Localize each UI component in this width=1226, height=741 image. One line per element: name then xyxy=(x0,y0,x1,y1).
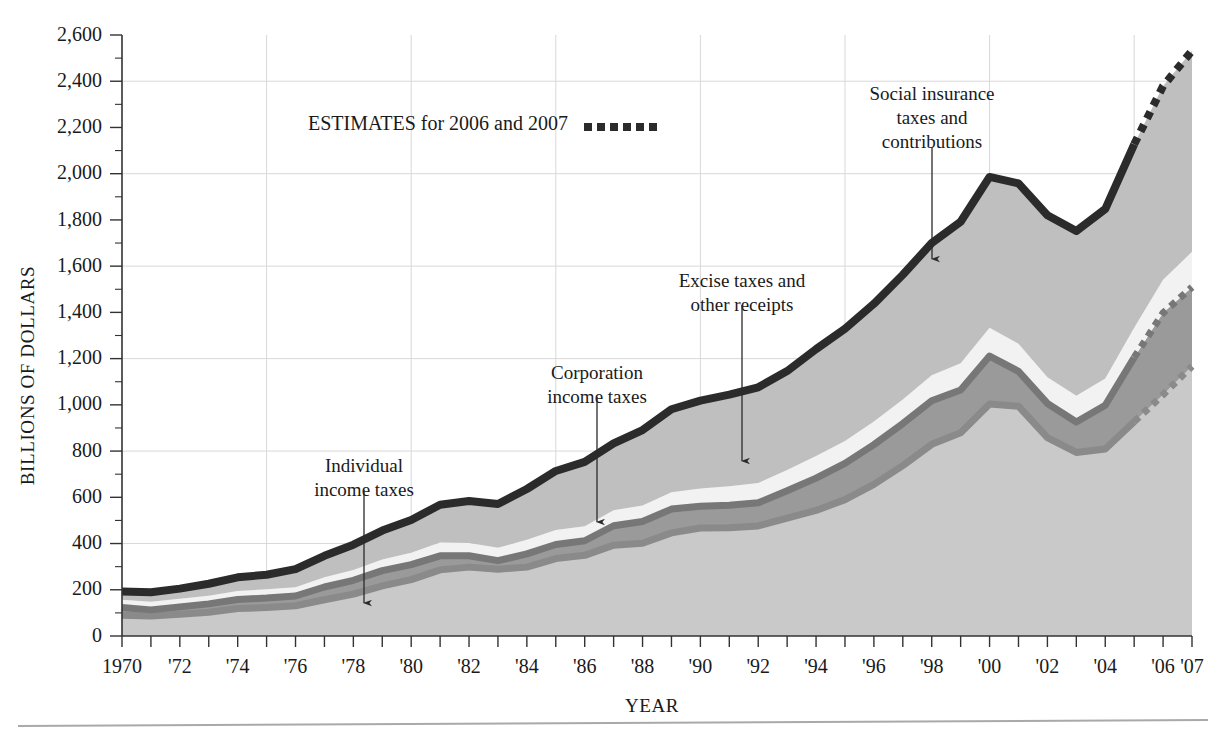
y-tick-label: 2,000 xyxy=(57,161,102,183)
y-tick-label: 1,800 xyxy=(57,208,102,230)
legend-dot xyxy=(636,123,644,131)
legend-dot xyxy=(623,123,631,131)
y-tick-label: 2,200 xyxy=(57,115,102,137)
legend-dot xyxy=(610,123,618,131)
x-tick-label: '82 xyxy=(457,655,481,677)
legend-dot xyxy=(584,123,592,131)
y-axis-title: BILLIONS OF DOLLARS xyxy=(17,266,38,485)
annotation-label-line: Social insurance xyxy=(869,83,994,104)
x-tick-label: '94 xyxy=(804,655,828,677)
annotation-label-line: Individual xyxy=(325,455,403,476)
y-tick-label: 1,200 xyxy=(57,346,102,368)
x-tick-label: 1970 xyxy=(102,655,142,677)
y-tick-label: 2,600 xyxy=(57,23,102,45)
estimates-legend-label: ESTIMATES for 2006 and 2007 xyxy=(308,112,568,134)
y-tick-label: 1,600 xyxy=(57,254,102,276)
x-tick-label: '92 xyxy=(746,655,770,677)
annotation-label-line: taxes and xyxy=(896,107,968,128)
x-tick-label: '00 xyxy=(978,655,1002,677)
y-tick-label: 0 xyxy=(92,624,102,646)
legend-dot xyxy=(649,123,657,131)
x-tick-label: '88 xyxy=(631,655,655,677)
chart-root: 02004006008001,0001,2001,4001,6001,8002,… xyxy=(0,0,1226,741)
y-tick-label: 400 xyxy=(72,531,102,553)
x-tick-label: '76 xyxy=(284,655,308,677)
annotation-label-line: Excise taxes and xyxy=(679,270,806,291)
y-tick-label: 800 xyxy=(72,439,102,461)
legend-dot xyxy=(597,123,605,131)
y-tick-label: 600 xyxy=(72,485,102,507)
x-tick-label: '78 xyxy=(342,655,366,677)
x-tick-label: '72 xyxy=(168,655,192,677)
y-tick-label: 1,000 xyxy=(57,392,102,414)
x-tick-label: '04 xyxy=(1093,655,1117,677)
x-axis-title: YEAR xyxy=(625,695,679,716)
y-tick-label: 2,400 xyxy=(57,69,102,91)
y-tick-label: 1,400 xyxy=(57,300,102,322)
x-tick-label: '07 xyxy=(1180,655,1204,677)
x-tick-label: '96 xyxy=(862,655,886,677)
x-tick-label: '74 xyxy=(226,655,250,677)
x-tick-label: '02 xyxy=(1036,655,1060,677)
x-tick-label: '86 xyxy=(573,655,597,677)
x-tick-label: '84 xyxy=(515,655,539,677)
annotation-label-line: Corporation xyxy=(551,362,643,383)
y-tick-label: 200 xyxy=(72,577,102,599)
x-tick-label: '90 xyxy=(689,655,713,677)
x-tick-label: '80 xyxy=(399,655,423,677)
federal-receipts-area-chart: 02004006008001,0001,2001,4001,6001,8002,… xyxy=(0,0,1226,741)
x-tick-label: '06 xyxy=(1151,655,1175,677)
x-tick-label: '98 xyxy=(920,655,944,677)
